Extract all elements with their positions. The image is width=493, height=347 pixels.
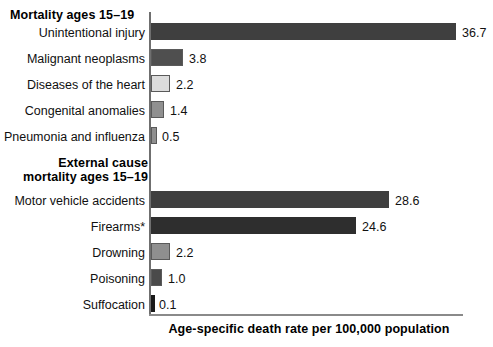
- bar-value-label: 2.2: [176, 76, 193, 94]
- category-label: Firearms*: [3, 218, 145, 236]
- category-label: Drowning: [3, 244, 145, 262]
- bar-value-label: 36.7: [462, 24, 486, 42]
- group-heading-external-cause-line2: mortality ages 15–19: [23, 170, 148, 184]
- bar: [151, 127, 157, 144]
- category-label: Pneumonia and influenza: [3, 128, 145, 146]
- bar-value-label: 1.4: [170, 102, 187, 120]
- group-heading-external-cause: External cause mortality ages 15–19: [8, 156, 148, 184]
- category-label: Diseases of the heart: [3, 76, 145, 94]
- table-row: Drowning 2.2: [0, 242, 493, 264]
- table-row: Pneumonia and influenza 0.5: [0, 126, 493, 148]
- bar: [151, 49, 183, 66]
- group-heading-mortality: Mortality ages 15–19: [10, 8, 134, 22]
- category-label: Malignant neoplasms: [3, 50, 145, 68]
- category-label: Congenital anomalies: [3, 102, 145, 120]
- table-row: Motor vehicle accidents 28.6: [0, 190, 493, 212]
- bar-value-label: 3.8: [189, 50, 206, 68]
- bar: [151, 23, 456, 40]
- bar-value-label: 24.6: [362, 218, 386, 236]
- table-row: Poisoning 1.0: [0, 268, 493, 290]
- table-row: Suffocation 0.1: [0, 294, 493, 316]
- group-heading-external-cause-line1: External cause: [58, 156, 148, 170]
- bar: [151, 243, 170, 260]
- table-row: Unintentional injury 36.7: [0, 22, 493, 44]
- bar-value-label: 1.0: [168, 270, 185, 288]
- bar-value-label: 2.2: [176, 244, 193, 262]
- category-label: Suffocation: [3, 296, 145, 314]
- bar: [151, 191, 389, 208]
- x-axis-caption: Age-specific death rate per 100,000 popu…: [149, 322, 469, 336]
- table-row: Congenital anomalies 1.4: [0, 100, 493, 122]
- category-label: Unintentional injury: [3, 24, 145, 42]
- bar: [151, 295, 155, 312]
- category-label: Motor vehicle accidents: [3, 192, 145, 210]
- bar: [151, 101, 164, 118]
- bar-value-label: 0.5: [162, 128, 179, 146]
- bar: [151, 217, 356, 234]
- bar-chart: Mortality ages 15–19 External cause mort…: [0, 0, 493, 347]
- bar-value-label: 28.6: [395, 192, 419, 210]
- bar-value-label: 0.1: [159, 296, 176, 314]
- table-row: Diseases of the heart 2.2: [0, 74, 493, 96]
- table-row: Malignant neoplasms 3.8: [0, 48, 493, 70]
- bar: [151, 75, 170, 92]
- bar: [151, 269, 162, 286]
- category-label: Poisoning: [3, 270, 145, 288]
- table-row: Firearms* 24.6: [0, 216, 493, 238]
